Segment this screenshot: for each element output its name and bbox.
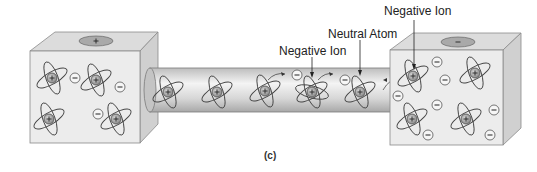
conduction-diagram: Negative Ion Neutral Atom Negative Ion (…	[0, 0, 537, 172]
label-negative-ion-tube: Negative Ion	[279, 44, 346, 58]
right-terminal-block	[390, 33, 521, 145]
label-negative-ion-top: Negative Ion	[384, 4, 451, 18]
figure-caption: (c)	[264, 150, 276, 161]
label-neutral-atom: Neutral Atom	[328, 27, 397, 41]
conductor-wire	[144, 68, 400, 112]
left-terminal-block	[30, 32, 158, 143]
